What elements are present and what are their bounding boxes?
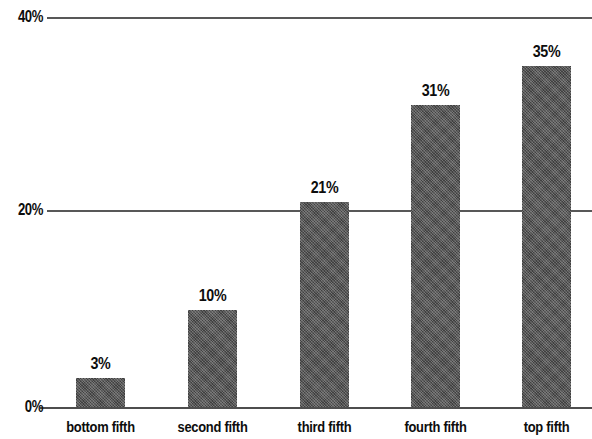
bar-top-fifth: [522, 66, 571, 407]
y-tick-label-40: 40%: [8, 9, 43, 25]
bar-value-bottom-fifth: 3%: [80, 355, 121, 372]
bar-value-top-fifth: 35%: [526, 43, 567, 60]
bar-chart: 40% 20% 0% 3% 10% 21% 31% 35% bottom fif…: [0, 0, 592, 439]
x-tick-label-bottom-fifth: bottom fifth: [61, 419, 139, 434]
x-tick-label-third-fifth: third fifth: [285, 419, 363, 434]
y-tick-label-0: 0%: [8, 399, 43, 415]
x-tick-label-fourth-fifth: fourth fifth: [396, 419, 474, 434]
y-tick-label-20: 20%: [8, 202, 43, 218]
bar-bottom-fifth: [76, 378, 125, 407]
axis-baseline-0: [40, 407, 592, 409]
bar-value-third-fifth: 21%: [304, 179, 345, 196]
bar-value-fourth-fifth: 31%: [415, 82, 456, 99]
bar-second-fifth: [188, 310, 237, 407]
x-tick-label-second-fifth: second fifth: [173, 419, 251, 434]
gridline-40: [47, 17, 592, 19]
bar-value-second-fifth: 10%: [192, 287, 233, 304]
x-tick-label-top-fifth: top fifth: [507, 419, 585, 434]
bar-third-fifth: [300, 202, 349, 407]
bar-fourth-fifth: [411, 105, 460, 407]
